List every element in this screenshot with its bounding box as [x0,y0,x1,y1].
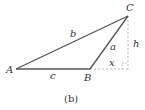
side-label-a: a [110,41,116,52]
vertex-label-a: A [5,64,13,75]
triangle-diagram: A B C b a c h x (b) [0,0,145,110]
extension-label-x: x [109,57,115,68]
figure-caption: (b) [64,93,78,104]
side-label-b: b [70,28,76,39]
right-angle-marker [122,63,128,69]
height-label-h: h [133,38,139,49]
side-label-c: c [50,70,56,81]
vertex-label-b: B [83,72,91,83]
vertex-label-c: C [126,2,134,13]
